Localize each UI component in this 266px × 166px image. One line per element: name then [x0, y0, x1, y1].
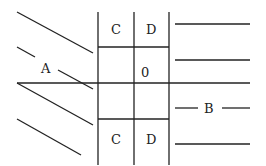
cell-center: 0: [141, 65, 149, 80]
diagonal-line-3: [17, 83, 93, 125]
diagonal-line-1: [17, 12, 93, 53]
cell-bottom-right: D: [146, 132, 156, 147]
cell-top-left: C: [111, 22, 121, 37]
diagram-canvas: A B C D 0 C D: [0, 0, 266, 166]
diagram: A B C D 0 C D: [0, 0, 266, 166]
cell-top-right: D: [146, 22, 156, 37]
diagonal-line-2b: [58, 70, 93, 89]
diagonal-line-2a: [17, 47, 35, 57]
label-a: A: [40, 61, 51, 76]
diagonal-line-4: [17, 119, 81, 155]
cell-bottom-left: C: [111, 132, 121, 147]
label-b: B: [204, 101, 214, 116]
